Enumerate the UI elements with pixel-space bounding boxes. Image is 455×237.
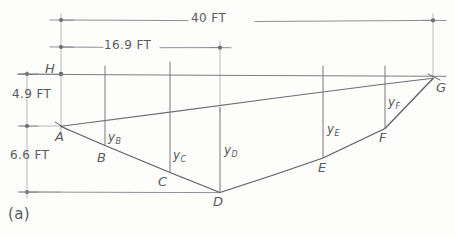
chord-line-AG: [61, 78, 433, 126]
ordinate-label-yC: yC: [173, 148, 187, 164]
ordinate-label-yF: yF: [388, 95, 401, 111]
ordinate-label-yD-sub: D: [232, 150, 239, 159]
datum-line-HG: [18, 74, 446, 76]
dimension-label-66ft: 6.6 FT: [10, 148, 49, 162]
dimension-label-49ft: 4.9 FT: [12, 87, 51, 101]
ordinate-label-yB: yB: [108, 130, 121, 146]
ordinate-label-yE: yE: [327, 122, 340, 138]
point-label-C: C: [158, 174, 167, 189]
dimension-tick-dots: [25, 18, 435, 194]
ordinate-label-yD-base: y: [224, 143, 232, 157]
point-label-B: B: [97, 150, 106, 165]
ordinate-label-yB-sub: B: [116, 137, 122, 146]
dimension-label-169ft: 16.9 FT: [104, 38, 151, 52]
cable-sag-diagram: [0, 0, 455, 237]
point-label-G: G: [436, 80, 446, 95]
ordinate-label-yF-base: y: [388, 95, 396, 109]
point-label-A: A: [55, 129, 64, 144]
ordinate-label-yE-base: y: [327, 122, 335, 136]
ordinate-label-yC-sub: C: [181, 155, 187, 164]
dimension-40ft: [50, 20, 446, 22]
ordinate-label-yD: yD: [224, 143, 238, 159]
dimension-label-40ft: 40 FT: [191, 11, 226, 25]
datum-line-D: [25, 192, 220, 193]
ordinate-label-yB-base: y: [108, 130, 116, 144]
point-label-F: F: [379, 130, 387, 145]
point-label-H: H: [45, 61, 55, 76]
point-label-D: D: [213, 194, 223, 209]
ordinate-label-yF-sub: F: [396, 102, 401, 111]
figure-caption: (a): [8, 205, 30, 223]
point-label-E: E: [318, 160, 327, 175]
figure-sheet: 40 FT 16.9 FT 4.9 FT 6.6 FT H A B C D E …: [0, 0, 455, 237]
extension-lines: [20, 14, 433, 198]
ordinate-lines: [105, 62, 385, 193]
ordinate-label-yE-sub: E: [335, 129, 340, 138]
ordinate-label-yC-base: y: [173, 148, 181, 162]
